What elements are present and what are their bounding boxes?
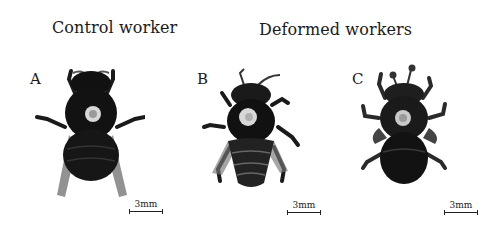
scale-line-a: [129, 211, 163, 212]
scale-label-b: 3mm: [287, 201, 321, 210]
heading-deformed-workers: Deformed workers: [259, 20, 412, 39]
bee-image-deformed-b: [200, 65, 305, 195]
bee-image-control: [35, 65, 145, 200]
scale-bar-a: 3mm: [129, 200, 163, 214]
scale-label-a: 3mm: [129, 200, 163, 209]
scale-line-c: [444, 212, 478, 213]
scale-label-c: 3mm: [444, 201, 478, 210]
scale-bar-c: 3mm: [444, 201, 478, 215]
bee-image-deformed-c: [355, 62, 455, 192]
scale-bar-b: 3mm: [287, 201, 321, 215]
scale-line-b: [287, 212, 321, 213]
heading-control-worker: Control worker: [52, 18, 177, 37]
